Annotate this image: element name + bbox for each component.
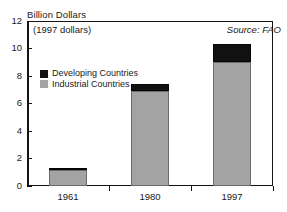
- bar-segment-industrial: [131, 91, 169, 186]
- y-tick-mark: [27, 186, 32, 187]
- x-tick-mark: [109, 186, 110, 191]
- y-tick-label: 4: [0, 125, 22, 137]
- chart-legend: Developing Countries Industrial Countrie…: [40, 69, 138, 90]
- y-tick-mark: [27, 131, 32, 132]
- legend-swatch-industrial-icon: [40, 80, 48, 88]
- stacked-bar-chart: Billion Dollars 024681012 196119801997 (…: [0, 0, 287, 212]
- y-tick-label: 10: [0, 42, 22, 54]
- legend-item-industrial: Industrial Countries: [40, 80, 138, 89]
- y-tick-label: 12: [0, 15, 22, 27]
- x-axis-label-1997: 1997: [202, 191, 262, 203]
- source-note: Source: FAO: [227, 24, 281, 35]
- bar-segment-developing: [213, 44, 251, 62]
- x-tick-mark: [191, 186, 192, 191]
- y-tick-mark: [27, 76, 32, 77]
- legend-label-industrial: Industrial Countries: [52, 80, 130, 89]
- legend-label-developing: Developing Countries: [52, 69, 138, 78]
- currency-note: (1997 dollars): [33, 24, 91, 35]
- y-tick-label: 0: [0, 180, 22, 192]
- legend-swatch-developing-icon: [40, 70, 48, 78]
- legend-item-developing: Developing Countries: [40, 69, 138, 78]
- x-tick-mark: [273, 186, 274, 191]
- bar-1997: [213, 21, 251, 186]
- y-tick-mark: [27, 158, 32, 159]
- bar-segment-industrial: [213, 62, 251, 186]
- y-tick-label: 2: [0, 152, 22, 164]
- y-tick-mark: [27, 21, 32, 22]
- bar-segment-developing: [49, 168, 87, 170]
- y-tick-mark: [27, 103, 32, 104]
- bar-1961: [49, 21, 87, 186]
- y-tick-mark: [27, 48, 32, 49]
- y-tick-label: 8: [0, 70, 22, 82]
- x-axis-label-1980: 1980: [120, 191, 180, 203]
- y-tick-label: 6: [0, 97, 22, 109]
- bar-segment-industrial: [49, 170, 87, 187]
- chart-axis-title: Billion Dollars: [27, 9, 86, 20]
- bar-1980: [131, 21, 169, 186]
- x-axis-label-1961: 1961: [38, 191, 98, 203]
